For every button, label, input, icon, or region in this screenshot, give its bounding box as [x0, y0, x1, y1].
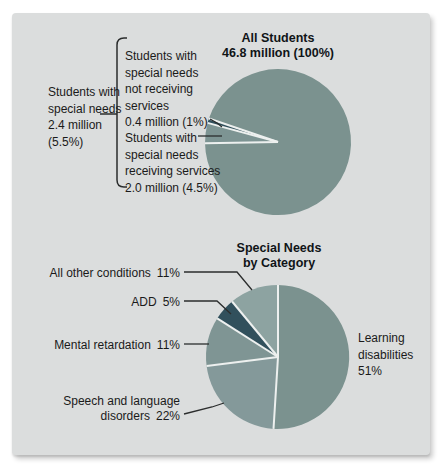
callout-line: Students with: [125, 130, 220, 147]
legend-pct: 51%: [358, 363, 413, 380]
pie2-slice-learning-disabilities: [274, 285, 350, 429]
chart1-title-line2: 46.8 million (100%): [178, 46, 378, 61]
group-label-line: (5.5%): [48, 134, 121, 151]
callout-line: Students with: [125, 48, 208, 65]
legend-pct: 22%: [156, 409, 180, 423]
callout-receiving: Students with special needs receiving se…: [125, 130, 220, 196]
legend-learning-disabilities: Learning disabilities 51%: [358, 330, 413, 380]
connector-speech-language: [184, 403, 224, 414]
legend-label: Speech and language: [63, 394, 180, 409]
chart2-title-line1: Special Needs: [179, 241, 379, 256]
legend-pct: 5%: [163, 295, 180, 309]
group-label-line: Students with: [48, 84, 121, 101]
legend-label: Mental retardation: [54, 338, 151, 352]
chart2-title-line2: by Category: [179, 256, 379, 271]
group-label-line: 2.4 million: [48, 117, 121, 134]
legend-label-line2: disorders22%: [63, 409, 180, 424]
legend-add: ADD5%: [131, 295, 180, 310]
connector-all-other-conditions: [184, 272, 252, 290]
chart1-title: All Students 46.8 million (100%): [178, 31, 378, 60]
callout-line: not receiving: [125, 81, 208, 98]
callout-line: services: [125, 98, 208, 115]
callout-line: special needs: [125, 65, 208, 82]
legend-label: Learning: [358, 330, 413, 347]
legend-label: All other conditions: [49, 266, 150, 280]
legend-speech-language: Speech and language disorders22%: [63, 394, 180, 424]
chart2-title: Special Needs by Category: [179, 241, 379, 270]
group-label-special-needs: Students with special needs 2.4 million …: [48, 84, 121, 150]
chart1-title-line1: All Students: [178, 31, 378, 46]
pie-all-students: [205, 69, 351, 215]
legend-pct: 11%: [157, 338, 180, 352]
callout-line: special needs: [125, 147, 220, 164]
legend-label: disabilities: [358, 347, 413, 364]
callout-not-receiving: Students with special needs not receivin…: [125, 48, 208, 131]
callout-line: receiving services: [125, 163, 220, 180]
legend-all-other-conditions: All other conditions11%: [49, 266, 180, 281]
callout-line: 0.4 million (1%): [125, 114, 208, 131]
legend-pct: 11%: [157, 266, 180, 280]
pie2-slice-speech-and-language-disorders: [207, 357, 278, 429]
figure-canvas: [12, 13, 430, 455]
figure-card: All Students 46.8 million (100%) Student…: [12, 13, 430, 455]
legend-mental-retardation: Mental retardation11%: [54, 338, 180, 353]
callout-line: 2.0 million (4.5%): [125, 180, 220, 197]
legend-label: ADD: [131, 295, 156, 309]
legend-label: disorders: [101, 409, 150, 423]
group-label-line: special needs: [48, 101, 121, 118]
pie-special-needs-by-category: [206, 285, 349, 429]
